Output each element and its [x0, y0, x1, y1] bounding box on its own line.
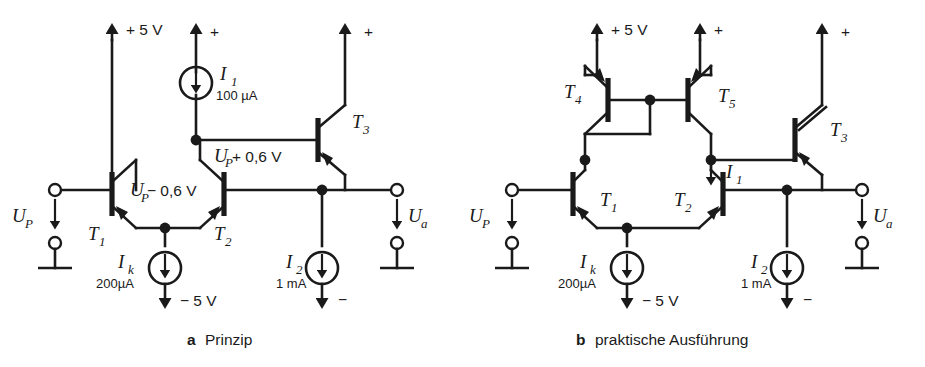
plus-marker-b-1: +	[714, 21, 723, 38]
transistor-t1-b-sub: 1	[611, 200, 618, 215]
panel-a-source-ik: I k 200µA − 5 V	[96, 223, 217, 309]
transistor-t2-b-sub: 2	[685, 200, 692, 215]
panel-a-output-port: U a	[380, 184, 428, 268]
source-i2-name-b: I	[750, 251, 759, 272]
source-ik-name-b: I	[579, 251, 588, 272]
current-i1-sub-b: 1	[736, 172, 743, 187]
panel-a-annot-up-minus: U P − 0,6 V	[130, 179, 197, 205]
transistor-t4-b-sub: 4	[575, 92, 582, 107]
annot-up-minus-rest: − 0,6 V	[147, 182, 197, 199]
input-ground-terminal-a[interactable]	[49, 237, 61, 249]
panel-b-rail-positive: + 5 V	[597, 21, 648, 75]
panel-a-caption: a Prinzip	[187, 331, 252, 348]
source-ik-value-b: 200µA	[558, 276, 596, 291]
transistor-t1-a-sub: 1	[99, 234, 106, 249]
source-ik-sub: k	[128, 262, 134, 277]
panel-a-node-up-plus: U P + 0,6 V	[191, 135, 318, 170]
panel-b-output-port: U a	[845, 184, 893, 268]
source-ik-sub-b: k	[590, 262, 596, 277]
minus-marker-a: −	[338, 291, 347, 308]
transistor-t5-b-sub: 5	[729, 96, 736, 111]
transistor-t3-a-sub: 3	[362, 122, 370, 137]
rail-positive-label-a: + 5 V	[126, 21, 163, 38]
output-terminal-b[interactable]	[856, 184, 868, 196]
panel-b-caption: b praktische Ausführung	[576, 331, 748, 348]
annot-up-plus-rest: + 0,6 V	[232, 148, 282, 165]
panel-b-source-ik: I k 200µA − 5 V	[558, 223, 679, 309]
plus-marker-a-2: +	[364, 23, 373, 40]
panel-b: + 5 V + T 4	[469, 21, 893, 348]
current-i1-name-b: I	[725, 161, 734, 182]
transistor-t2-a-sub: 2	[225, 234, 232, 249]
panel-b-t4-diode-loop	[580, 100, 650, 165]
source-i1-value: 100 µA	[216, 88, 258, 103]
output-terminal-a[interactable]	[391, 184, 403, 196]
rail-positive-label-b: + 5 V	[611, 21, 648, 38]
panel-a: + 5 V + I 1 100 µA U P + 0,6 V	[12, 21, 428, 348]
caption-text-b: praktische Ausführung	[595, 331, 748, 348]
panel-a-rail-positive: + 5 V	[112, 21, 163, 190]
transistor-t3-b-sub: 3	[840, 130, 848, 145]
caption-letter-a: a	[187, 331, 196, 348]
minus-marker-b: −	[803, 291, 812, 308]
output-ground-terminal-b[interactable]	[856, 237, 868, 249]
circuit-svg: + 5 V + I 1 100 µA U P + 0,6 V	[0, 0, 925, 367]
input-ground-terminal-b[interactable]	[506, 237, 518, 249]
input-terminal-a[interactable]	[49, 184, 61, 196]
source-i2-sub-b: 2	[761, 262, 768, 277]
input-sub-b: P	[481, 216, 490, 231]
source-i1-name: I	[219, 63, 228, 84]
input-sub-a: P	[24, 216, 33, 231]
source-i2-value: 1 mA	[276, 276, 307, 291]
source-i2-value-b: 1 mA	[741, 276, 772, 291]
plus-marker-a-1: +	[210, 23, 219, 40]
plus-marker-b-2: +	[841, 23, 850, 40]
transistor-t3-a: T 3 +	[318, 23, 373, 190]
transistor-t5-b: T 5	[645, 66, 736, 160]
panel-b-node-i1: I 1	[706, 155, 795, 187]
panel-a-input-port: U P	[12, 184, 72, 268]
source-ik-name: I	[117, 251, 126, 272]
rail-negative-label-b: − 5 V	[642, 292, 679, 309]
source-i1-sub: 1	[231, 74, 238, 89]
transistor-t2-b: T 2	[627, 160, 855, 228]
input-terminal-b[interactable]	[506, 184, 518, 196]
transistor-t1-b: T 1	[517, 160, 627, 228]
caption-letter-b: b	[576, 331, 585, 348]
rail-negative-label-a: − 5 V	[180, 292, 217, 309]
source-ik-value: 200µA	[96, 276, 134, 291]
panel-b-source-i2: I 2 1 mA −	[741, 185, 812, 308]
transistor-t1-a: T 1	[60, 160, 165, 249]
panel-b-input-port: U P	[469, 184, 529, 268]
transistor-t4-b: T 4	[564, 66, 650, 160]
panel-a-source-i1-branch: + I 1 100 µA	[180, 23, 258, 140]
caption-text-a: Prinzip	[205, 331, 252, 348]
output-sub-a: a	[421, 216, 428, 231]
circuit-figure: + 5 V + I 1 100 µA U P + 0,6 V	[0, 0, 925, 367]
transistor-t3-b: T 3 +	[795, 23, 850, 190]
output-ground-terminal-a[interactable]	[391, 237, 403, 249]
source-i2-sub: 2	[296, 262, 303, 277]
panel-a-source-i2: I 2 1 mA −	[276, 185, 347, 308]
output-sub-b: a	[886, 216, 893, 231]
source-i2-name: I	[285, 251, 294, 272]
